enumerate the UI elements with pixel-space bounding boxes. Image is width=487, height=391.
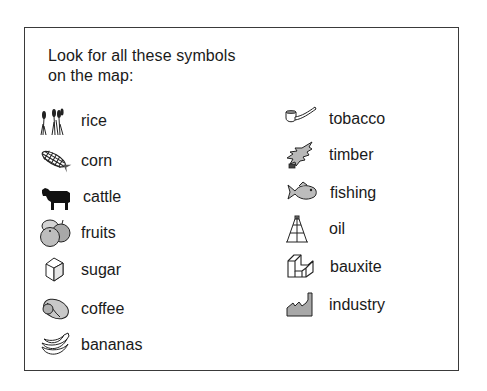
fruits-icon [38, 218, 72, 248]
legend-title: Look for all these symbols on the map: [48, 46, 236, 86]
legend-label-rice: rice [81, 112, 107, 130]
legend-label-bananas: bananas [81, 336, 142, 354]
legend-title-line2: on the map: [48, 66, 236, 86]
legend-label-bauxite: bauxite [330, 258, 382, 276]
coffee-icon [38, 294, 72, 324]
legend-label-fruits: fruits [81, 224, 116, 242]
rice-icon [38, 106, 72, 136]
sugar-icon [38, 255, 72, 285]
legend-label-timber: timber [329, 146, 373, 164]
legend-title-line1: Look for all these symbols [48, 46, 236, 66]
cattle-icon [40, 182, 74, 212]
fishing-icon [285, 178, 319, 208]
legend-label-fishing: fishing [330, 184, 376, 202]
legend-label-oil: oil [329, 220, 345, 238]
tobacco-icon [284, 104, 318, 134]
legend-label-industry: industry [329, 296, 385, 314]
industry-icon [284, 290, 318, 320]
legend-label-corn: corn [81, 152, 112, 170]
legend-label-tobacco: tobacco [329, 110, 385, 128]
bananas-icon [38, 330, 72, 360]
legend-label-coffee: coffee [81, 300, 124, 318]
timber-icon [284, 140, 318, 170]
bauxite-icon [285, 252, 319, 282]
legend-label-sugar: sugar [81, 261, 121, 279]
legend-label-cattle: cattle [83, 188, 121, 206]
oil-icon [284, 214, 318, 244]
corn-icon [38, 146, 72, 176]
